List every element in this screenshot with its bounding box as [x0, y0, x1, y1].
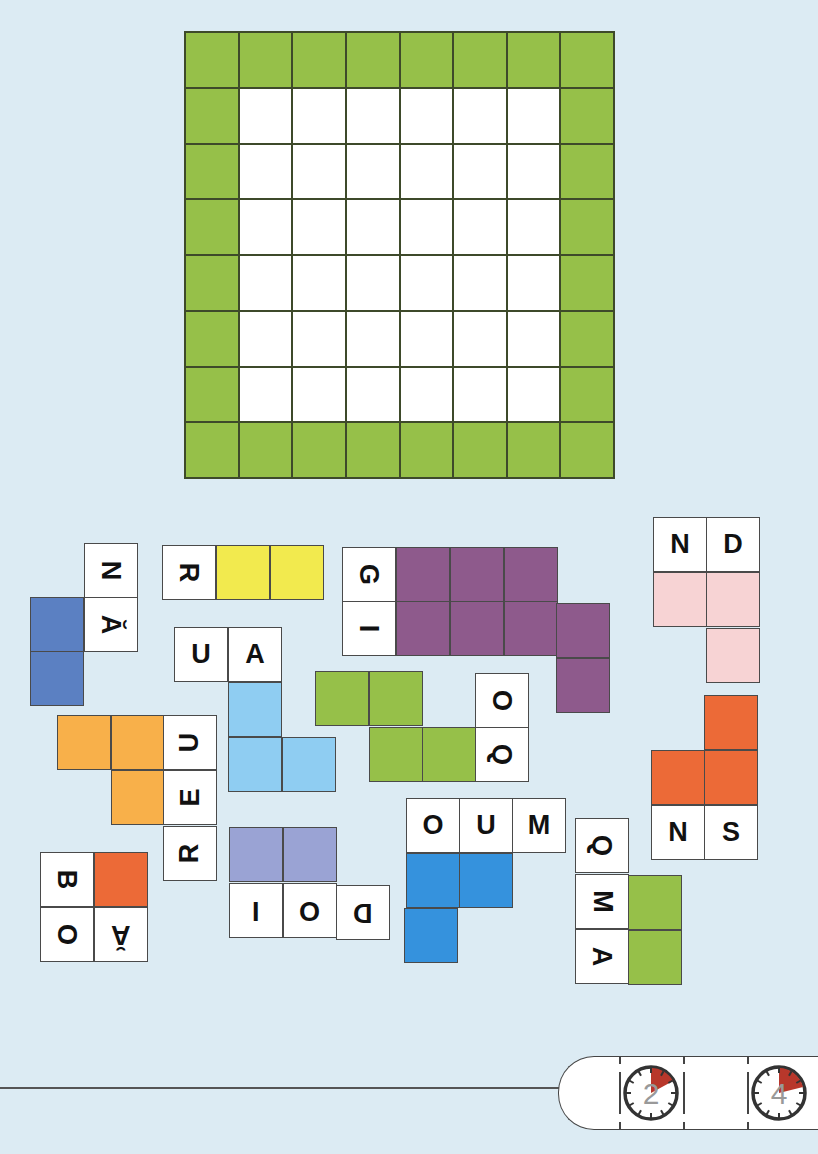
board-border-cell: [292, 422, 346, 478]
board-empty-cell[interactable]: [239, 255, 293, 311]
board-empty-cell[interactable]: [239, 144, 293, 200]
color-cell: [704, 750, 758, 805]
board-border-cell: [507, 32, 561, 88]
color-cell: [653, 572, 707, 627]
board-empty-cell[interactable]: [400, 367, 454, 423]
color-cell: [216, 545, 270, 600]
board-border-cell: [560, 255, 614, 311]
board-border-cell: [400, 32, 454, 88]
letter-cell: R: [163, 826, 217, 881]
color-cell: [422, 727, 476, 782]
color-cell: [556, 603, 610, 658]
letter-cell: M: [512, 798, 566, 853]
color-cell: [504, 601, 558, 656]
board-empty-cell[interactable]: [292, 199, 346, 255]
board-empty-cell[interactable]: [346, 255, 400, 311]
color-cell: [406, 853, 460, 908]
color-cell: [628, 875, 682, 930]
board-empty-cell[interactable]: [292, 367, 346, 423]
board-empty-cell[interactable]: [453, 367, 507, 423]
color-cell: [450, 547, 504, 602]
board-border-cell: [185, 88, 239, 144]
board-empty-cell[interactable]: [346, 88, 400, 144]
board-border-cell: [185, 367, 239, 423]
color-cell: [450, 601, 504, 656]
color-cell: [30, 651, 84, 706]
board-empty-cell[interactable]: [239, 88, 293, 144]
board-empty-cell[interactable]: [453, 88, 507, 144]
letter-cell: G: [342, 547, 396, 602]
board-empty-cell[interactable]: [346, 367, 400, 423]
board-empty-cell[interactable]: [292, 255, 346, 311]
letter-cell: O: [40, 907, 94, 962]
board-empty-cell[interactable]: [346, 311, 400, 367]
board-empty-cell[interactable]: [507, 311, 561, 367]
letter-cell: O: [406, 798, 460, 853]
board-border-cell: [560, 88, 614, 144]
letter-cell: Q: [475, 727, 529, 782]
letter-cell: D: [706, 517, 760, 572]
color-cell: [282, 737, 336, 792]
board-border-cell: [346, 32, 400, 88]
board-empty-cell[interactable]: [453, 255, 507, 311]
color-cell: [369, 671, 423, 726]
board-empty-cell[interactable]: [507, 255, 561, 311]
board-empty-cell[interactable]: [453, 311, 507, 367]
board-empty-cell[interactable]: [239, 199, 293, 255]
board-empty-cell[interactable]: [400, 144, 454, 200]
board-empty-cell[interactable]: [507, 144, 561, 200]
board-border-cell: [239, 32, 293, 88]
board-border-cell: [507, 422, 561, 478]
board-empty-cell[interactable]: [346, 199, 400, 255]
letter-cell: U: [174, 627, 228, 682]
letter-cell: I: [342, 601, 396, 656]
board-border-cell: [292, 32, 346, 88]
board-empty-cell[interactable]: [346, 144, 400, 200]
color-cell: [628, 930, 682, 985]
board-border-cell: [560, 367, 614, 423]
board-border-cell: [400, 422, 454, 478]
color-cell: [396, 547, 450, 602]
board-empty-cell[interactable]: [400, 88, 454, 144]
letter-cell: A: [228, 627, 282, 682]
board-empty-cell[interactable]: [400, 199, 454, 255]
color-cell: [556, 658, 610, 713]
color-cell: [229, 827, 283, 882]
board-empty-cell[interactable]: [507, 88, 561, 144]
letter-cell: A: [575, 929, 629, 984]
board-empty-cell[interactable]: [292, 144, 346, 200]
color-cell: [111, 770, 165, 825]
letter-cell: E: [163, 770, 217, 825]
color-cell: [459, 853, 513, 908]
color-cell: [228, 682, 282, 737]
color-cell: [704, 695, 758, 750]
board-border-cell: [185, 422, 239, 478]
board-empty-cell[interactable]: [453, 199, 507, 255]
letter-cell: Ă: [94, 907, 148, 962]
board-empty-cell[interactable]: [453, 144, 507, 200]
color-cell: [30, 597, 84, 652]
board-empty-cell[interactable]: [292, 311, 346, 367]
letter-cell: I: [229, 883, 283, 938]
letter-cell: D: [336, 885, 390, 940]
letter-cell: O: [283, 883, 337, 938]
board-border-cell: [185, 311, 239, 367]
board-empty-cell[interactable]: [507, 199, 561, 255]
letter-cell: R: [162, 545, 216, 600]
svg-text:4: 4: [771, 1077, 788, 1110]
color-cell: [57, 715, 111, 770]
letter-cell: Ă: [84, 597, 138, 652]
board-empty-cell[interactable]: [400, 311, 454, 367]
color-cell: [504, 547, 558, 602]
board-empty-cell[interactable]: [507, 367, 561, 423]
board-empty-cell[interactable]: [239, 311, 293, 367]
board-empty-cell[interactable]: [400, 255, 454, 311]
letter-cell: S: [704, 805, 758, 860]
board-border-cell: [560, 144, 614, 200]
letter-cell: M: [575, 874, 629, 929]
board-border-cell: [560, 311, 614, 367]
board-empty-cell[interactable]: [292, 88, 346, 144]
board-border-cell: [185, 255, 239, 311]
color-cell: [404, 908, 458, 963]
board-empty-cell[interactable]: [239, 367, 293, 423]
